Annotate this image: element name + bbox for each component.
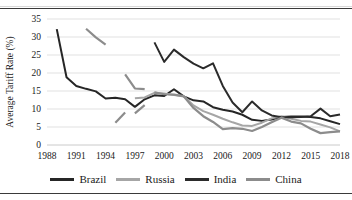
plot-area: 05101520253035 1988199119941997200020032… (0, 10, 352, 168)
series-line-china-seg1 (115, 113, 125, 123)
top-rule (0, 8, 352, 9)
y-tick-5: 5 (36, 122, 41, 132)
legend-label-brazil: Brazil (79, 174, 106, 185)
x-tick-1988: 1988 (38, 151, 57, 161)
x-tick-1991: 1991 (67, 151, 86, 161)
y-tick-labels: 05101520253035 (32, 14, 42, 150)
y-tick-0: 0 (36, 140, 41, 150)
legend-swatch-india (185, 178, 209, 181)
x-tick-labels: 1988199119941997200020032006200920122015… (38, 151, 350, 161)
legend-item-china[interactable]: China (246, 174, 301, 185)
y-tick-15: 15 (32, 86, 42, 96)
chart-figure: 05101520253035 1988199119941997200020032… (0, 0, 352, 200)
x-tick-2018: 2018 (331, 151, 350, 161)
line-chart: 05101520253035 1988199119941997200020032… (0, 10, 352, 168)
series-layer (57, 29, 340, 133)
y-gridlines (47, 19, 340, 145)
series-line-brazil (57, 29, 340, 124)
x-tick-1997: 1997 (125, 151, 144, 161)
y-tick-10: 10 (32, 104, 42, 114)
legend-item-brazil[interactable]: Brazil (50, 174, 106, 185)
legend-label-russia: Russia (145, 174, 174, 185)
legend-label-india: India (214, 174, 237, 185)
x-tick-2000: 2000 (155, 151, 174, 161)
x-tick-2009: 2009 (243, 151, 262, 161)
x-tick-2003: 2003 (184, 151, 203, 161)
legend-label-china: China (275, 174, 301, 185)
bottom-rule (0, 193, 352, 194)
y-tick-35: 35 (32, 14, 42, 24)
x-tick-2006: 2006 (213, 151, 232, 161)
legend-swatch-brazil (50, 178, 74, 181)
legend-swatch-russia (116, 178, 140, 181)
legend-swatch-china (246, 178, 270, 181)
y-tick-25: 25 (32, 50, 42, 60)
legend-item-russia[interactable]: Russia (116, 174, 174, 185)
y-axis-title: Average Tariff Rate (%) (5, 36, 16, 127)
y-tick-20: 20 (32, 68, 42, 78)
series-line-india (154, 42, 340, 117)
series-line-russia (135, 93, 340, 132)
top-hairline (0, 6, 352, 7)
legend-item-india[interactable]: India (185, 174, 237, 185)
x-tick-1994: 1994 (96, 151, 115, 161)
chart-legend: BrazilRussiaIndiaChina (0, 170, 352, 188)
series-line-china-seg3 (125, 74, 145, 89)
y-tick-30: 30 (32, 32, 42, 42)
x-tick-2012: 2012 (272, 151, 291, 161)
x-tick-2015: 2015 (301, 151, 320, 161)
